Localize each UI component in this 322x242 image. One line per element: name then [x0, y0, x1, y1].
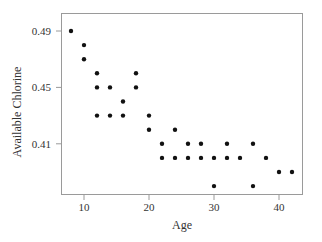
data-point [134, 71, 138, 75]
data-point [199, 156, 203, 160]
data-point [82, 43, 86, 47]
scatter-chart: 10203040 0.410.450.49 Age Available Chlo… [0, 0, 322, 242]
data-point [199, 142, 203, 146]
y-tick-label: 0.49 [32, 25, 52, 37]
data-point [82, 57, 86, 61]
x-tick-label: 40 [274, 201, 286, 213]
data-point [264, 156, 268, 160]
x-tick-label: 20 [144, 201, 156, 213]
x-tick-label: 10 [79, 201, 91, 213]
data-point [95, 71, 99, 75]
plot-frame [62, 14, 303, 195]
data-point [225, 142, 229, 146]
data-point [290, 170, 294, 174]
y-tick-label: 0.45 [32, 81, 52, 93]
y-axis: 0.410.450.49 [32, 25, 61, 150]
data-point [212, 184, 216, 188]
y-tick-label: 0.41 [32, 138, 51, 150]
data-point [108, 113, 112, 117]
data-point [238, 156, 242, 160]
data-point [173, 156, 177, 160]
data-point [121, 113, 125, 117]
data-point [121, 99, 125, 103]
data-point [160, 142, 164, 146]
data-point [108, 85, 112, 89]
data-point [160, 156, 164, 160]
data-point [212, 156, 216, 160]
data-point [225, 156, 229, 160]
data-point [186, 156, 190, 160]
data-point [69, 29, 73, 33]
x-tick-label: 30 [209, 201, 221, 213]
data-point [173, 128, 177, 132]
x-axis: 10203040 [79, 195, 286, 213]
data-point [147, 113, 151, 117]
data-point [251, 184, 255, 188]
x-axis-label: Age [172, 218, 192, 232]
data-point [147, 128, 151, 132]
data-point [95, 113, 99, 117]
data-points [69, 29, 294, 189]
y-axis-label: Available Chlorine [10, 67, 24, 158]
data-point [134, 85, 138, 89]
data-point [186, 142, 190, 146]
data-point [95, 85, 99, 89]
data-point [251, 142, 255, 146]
data-point [277, 170, 281, 174]
